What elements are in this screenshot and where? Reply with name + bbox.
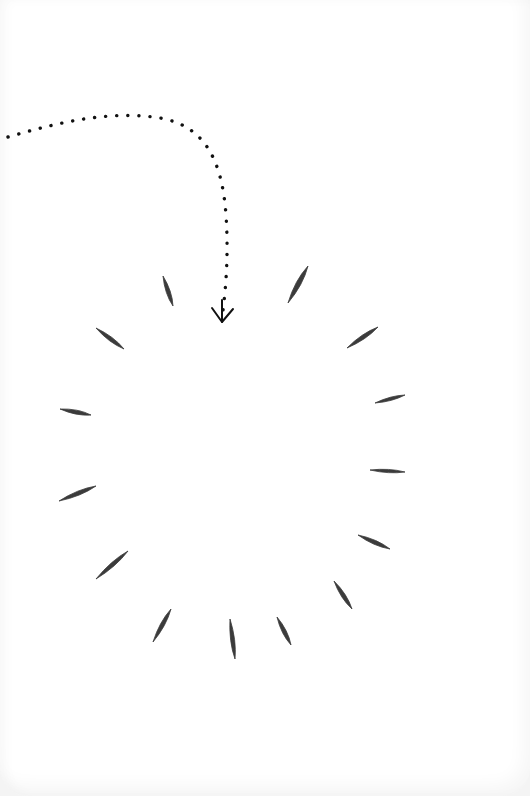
brush-stroke-3: [60, 409, 91, 415]
brush-stroke-8: [277, 617, 291, 645]
brush-stroke-10: [358, 535, 390, 549]
illustration: [0, 0, 530, 796]
brush-stroke-1: [163, 276, 173, 306]
brush-stroke-11: [370, 469, 405, 473]
dotted-arrow-icon: [8, 115, 233, 322]
brush-stroke-ring: [59, 266, 405, 659]
brush-stroke-5: [96, 551, 128, 579]
brush-stroke-7: [230, 619, 236, 659]
illustration-canvas: Hand-drawn dotted curved arrow pointing …: [0, 0, 530, 796]
brush-stroke-4: [59, 486, 96, 501]
brush-stroke-14: [288, 266, 308, 303]
brush-stroke-12: [375, 395, 405, 403]
brush-stroke-2: [96, 328, 124, 349]
dotted-arrow-path: [8, 115, 227, 318]
brush-stroke-6: [153, 609, 171, 642]
brush-stroke-9: [334, 581, 352, 609]
brush-stroke-13: [347, 327, 378, 348]
